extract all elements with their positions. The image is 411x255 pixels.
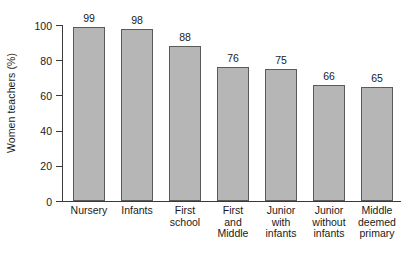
x-axis-category-label: FirstandMiddle [207,205,259,240]
y-axis-tick-label: 100 [34,20,52,32]
y-axis-title-label: Women teachers (%) [5,52,17,152]
x-axis-category-label-line: Middle [351,205,403,217]
bar-value-label: 65 [371,72,383,84]
y-axis-title: Women teachers (%) [0,0,22,205]
x-axis-category-label: Middledeemedprimary [351,205,403,240]
x-axis-category-label-line: First [207,205,259,217]
y-axis-tick: 80 [56,60,62,61]
x-axis-category-label-line: Infants [111,205,163,217]
y-axis-line [62,25,63,202]
bar[interactable] [313,85,345,201]
x-axis-category-label-line: primary [351,228,403,240]
y-axis-tick-label: 60 [40,90,52,102]
y-axis-tick: 0 [56,201,62,202]
bar-chart-figure: Women teachers (%) 020406080100 99988876… [0,0,411,255]
y-axis-tick-label: 40 [40,125,52,137]
x-axis-category-label-line: Junior [255,205,307,217]
x-axis-category-label-line: school [159,217,211,229]
y-axis-tick-label: 0 [46,196,52,208]
x-axis-category-label-line: Middle [207,228,259,240]
bar-value-label: 75 [275,54,287,66]
x-axis-category-label: Nursery [63,205,115,217]
x-axis-category-label: Juniorwithoutinfants [303,205,355,240]
x-axis-category-label-line: infants [303,228,355,240]
x-axis-category-label-line: Nursery [63,205,115,217]
bar[interactable] [217,67,249,201]
x-axis-category-label: Juniorwithinfants [255,205,307,240]
plot-area: 020406080100 99988876756665 NurseryInfan… [63,25,401,201]
y-axis-tick: 40 [56,131,62,132]
x-axis-category-label: Infants [111,205,163,217]
bar[interactable] [265,69,297,201]
y-axis-tick: 20 [56,166,62,167]
x-axis-category-label: Firstschool [159,205,211,228]
bar-value-label: 98 [131,14,143,26]
x-axis-category-label-line: infants [255,228,307,240]
bar[interactable] [73,27,105,201]
x-axis-category-label-line: Junior [303,205,355,217]
bar[interactable] [169,46,201,201]
bar[interactable] [361,87,393,201]
bar-value-label: 66 [323,70,335,82]
bar-value-label: 76 [227,52,239,64]
y-axis-tick: 100 [56,25,62,26]
bar-value-label: 88 [179,31,191,43]
y-axis-tick-label: 80 [40,55,52,67]
y-axis-tick: 60 [56,95,62,96]
x-axis-category-label-line: First [159,205,211,217]
y-axis-tick-label: 20 [40,160,52,172]
bar[interactable] [121,29,153,201]
x-axis-line [62,201,401,202]
bar-value-label: 99 [83,12,95,24]
